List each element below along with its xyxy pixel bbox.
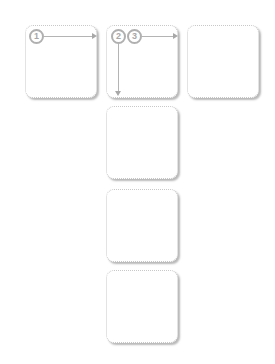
- arrow-right-icon: [92, 33, 97, 39]
- step-badge-3: 3: [127, 29, 142, 44]
- tile-6: [106, 270, 178, 343]
- arrow-down-icon: [115, 91, 121, 96]
- arrow-right-line-1: [44, 36, 92, 37]
- tile-5: [106, 189, 178, 262]
- tile-3: [187, 25, 259, 98]
- arrow-down-line-2: [118, 44, 119, 91]
- step-badge-1: 1: [29, 29, 44, 44]
- arrow-right-line-3: [142, 36, 173, 37]
- step-badge-2: 2: [111, 29, 126, 44]
- arrow-right-icon: [173, 33, 178, 39]
- tile-4: [106, 106, 178, 179]
